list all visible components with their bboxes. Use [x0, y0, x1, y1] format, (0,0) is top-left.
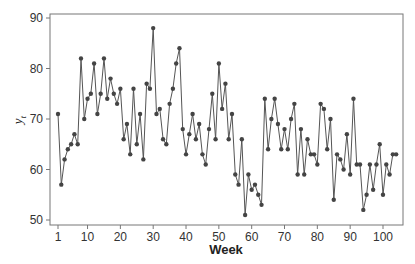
data-point	[266, 147, 270, 151]
data-point	[158, 107, 162, 111]
data-point	[243, 213, 247, 217]
data-point	[69, 142, 73, 146]
data-point	[108, 76, 112, 80]
svg-text:90: 90	[30, 11, 44, 25]
data-point	[135, 142, 139, 146]
svg-text:60: 60	[245, 230, 259, 244]
data-point	[305, 137, 309, 141]
data-point	[384, 162, 388, 166]
data-point	[72, 132, 76, 136]
data-point	[263, 97, 267, 101]
data-point	[381, 193, 385, 197]
data-point	[312, 152, 316, 156]
data-point	[361, 208, 365, 212]
data-point	[282, 127, 286, 131]
data-point	[79, 56, 83, 60]
data-point	[233, 172, 237, 176]
data-point	[220, 107, 224, 111]
data-point	[348, 172, 352, 176]
data-point	[299, 127, 303, 131]
data-point	[164, 142, 168, 146]
data-point	[144, 81, 148, 85]
data-point	[66, 147, 70, 151]
data-point	[204, 162, 208, 166]
data-point	[246, 172, 250, 176]
data-point	[207, 127, 211, 131]
data-point	[210, 92, 214, 96]
data-point	[92, 61, 96, 65]
data-point	[62, 157, 66, 161]
data-point	[197, 122, 201, 126]
data-point	[177, 46, 181, 50]
data-point	[368, 162, 372, 166]
data-point	[364, 193, 368, 197]
data-point	[289, 117, 293, 121]
data-point	[154, 112, 158, 116]
svg-text:20: 20	[114, 230, 128, 244]
data-point	[338, 157, 342, 161]
svg-text:80: 80	[30, 62, 44, 76]
data-point	[332, 198, 336, 202]
data-point	[141, 157, 145, 161]
data-point	[131, 87, 135, 91]
data-point	[387, 172, 391, 176]
data-point	[151, 26, 155, 30]
data-point	[371, 188, 375, 192]
data-point	[378, 142, 382, 146]
svg-text:90: 90	[343, 230, 357, 244]
svg-text:80: 80	[311, 230, 325, 244]
data-point	[322, 107, 326, 111]
data-point	[276, 122, 280, 126]
data-point	[253, 182, 257, 186]
data-markers	[56, 26, 399, 217]
data-point	[161, 137, 165, 141]
data-point	[105, 97, 109, 101]
data-point	[115, 102, 119, 106]
svg-text:40: 40	[179, 230, 193, 244]
svg-text:1: 1	[55, 230, 62, 244]
data-point	[112, 92, 116, 96]
data-point	[148, 87, 152, 91]
svg-text:50: 50	[30, 213, 44, 227]
data-point	[56, 112, 60, 116]
data-point	[341, 167, 345, 171]
data-point	[82, 117, 86, 121]
data-point	[200, 152, 204, 156]
data-point	[272, 97, 276, 101]
data-point	[286, 147, 290, 151]
x-axis-label: Week	[209, 242, 243, 257]
data-point	[121, 137, 125, 141]
data-point	[190, 112, 194, 116]
data-point	[184, 152, 188, 156]
svg-text:30: 30	[147, 230, 161, 244]
y-axis-ticks: 5060708090	[30, 11, 50, 227]
data-point	[335, 152, 339, 156]
data-point	[223, 81, 227, 85]
data-point	[374, 162, 378, 166]
data-point	[98, 92, 102, 96]
data-point	[138, 112, 142, 116]
data-point	[102, 56, 106, 60]
data-point	[187, 132, 191, 136]
data-point	[236, 182, 240, 186]
data-point	[259, 203, 263, 207]
data-point	[230, 112, 234, 116]
data-point	[174, 61, 178, 65]
data-point	[269, 117, 273, 121]
svg-text:70: 70	[278, 230, 292, 244]
data-point	[181, 127, 185, 131]
data-point	[59, 182, 63, 186]
data-point	[240, 137, 244, 141]
data-point	[256, 193, 260, 197]
data-point	[302, 172, 306, 176]
plot-frame	[50, 14, 403, 225]
series-line	[58, 28, 396, 215]
data-point	[315, 162, 319, 166]
svg-text:10: 10	[81, 230, 95, 244]
data-point	[394, 152, 398, 156]
data-point	[75, 142, 79, 146]
data-point	[292, 102, 296, 106]
svg-text:100: 100	[373, 230, 393, 244]
data-point	[89, 92, 93, 96]
y-axis-label: yt	[10, 115, 28, 126]
